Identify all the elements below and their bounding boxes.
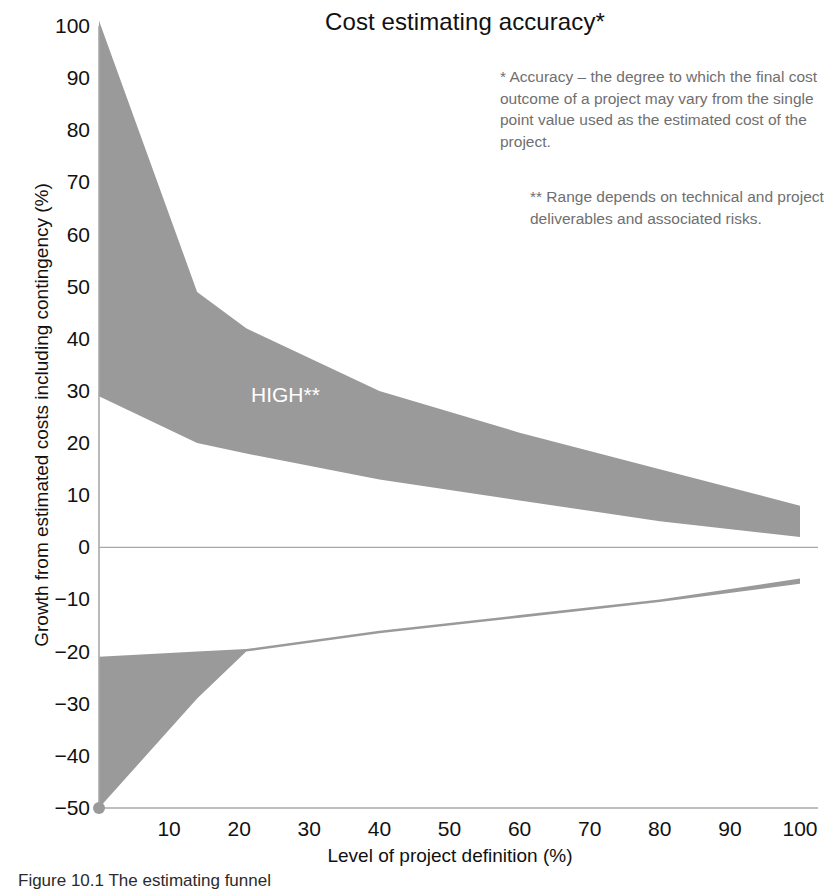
origin-marker-dot <box>93 802 105 814</box>
high-band-area <box>99 21 800 537</box>
low-band-area <box>99 579 800 808</box>
band-label-high: HIGH** <box>251 384 320 405</box>
figure-caption: Figure 10.1 The estimating funnel <box>18 871 271 891</box>
band-label-low: LOW** <box>249 613 313 634</box>
